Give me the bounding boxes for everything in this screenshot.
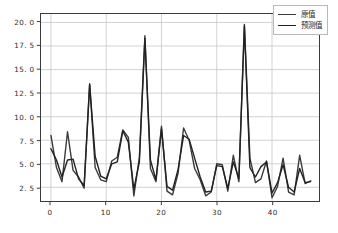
y-tick-label: 5. 0 [0,160,35,169]
y-tick-label: 2. 5 [0,184,35,193]
y-tick-label: 10. 0 [0,112,35,121]
x-tick-label: 10 [101,208,111,217]
x-tick-label: 0 [48,208,53,217]
legend-label-predicted: 预测值 [301,22,322,30]
x-tick-label: 30 [212,208,222,217]
x-tick-label: 40 [268,208,278,217]
y-tick-label: 7. 5 [0,136,35,145]
y-tick-label: 15. 0 [0,65,35,74]
legend-swatch-original [278,14,296,15]
y-tick-label: 20. 0 [0,17,35,26]
legend-swatch-predicted [278,25,296,26]
y-tick-label: 17. 5 [0,41,35,50]
legend-label-original: 原值 [301,11,315,19]
chart-legend: 原值 预测值 [273,5,328,35]
legend-entry-original: 原值 [278,9,322,20]
chart-figure: 2. 55. 07. 510. 012. 515. 017. 520. 0 01… [0,0,338,233]
y-tick-label: 12. 5 [0,88,35,97]
x-tick-label: 20 [156,208,166,217]
legend-entry-predicted: 预测值 [278,20,322,31]
